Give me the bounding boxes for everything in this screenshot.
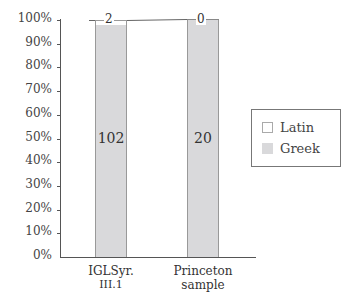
legend-label: Latin (280, 120, 314, 135)
legend-swatch-latin (262, 122, 273, 133)
x-label-line: III.1 (81, 278, 141, 292)
x-label-line: sample (168, 278, 238, 292)
legend-swatch-greek (262, 143, 273, 154)
x-tick-label-princeton: Princeton sample (168, 264, 238, 292)
x-label-line: Princeton (168, 264, 238, 278)
legend-item-latin: Latin (262, 120, 314, 135)
x-label-line: IGLSyr. (81, 264, 141, 278)
data-label-latin-princeton: 0 (196, 13, 206, 25)
legend-label: Greek (280, 141, 320, 156)
x-tick-label-iglsyr: IGLSyr. III.1 (81, 264, 141, 292)
legend-item-greek: Greek (262, 141, 320, 156)
data-label-greek-princeton: 20 (187, 130, 219, 146)
legend: Latin Greek (251, 109, 341, 167)
